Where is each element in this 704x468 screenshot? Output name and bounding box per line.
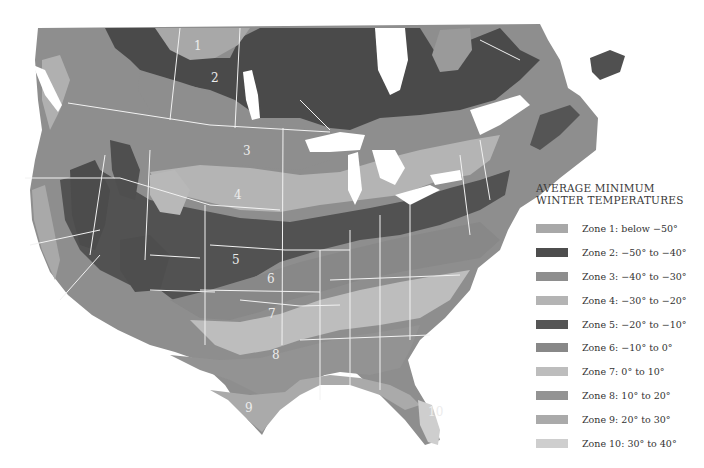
legend-item-zone-2: Zone 2: −50° to −40° (533, 241, 704, 265)
legend-item-zone-8: Zone 8: 10° to 20° (533, 384, 704, 408)
legend-item-zone-7: Zone 7: 0° to 10° (533, 360, 704, 384)
legend-title-line1: AVERAGE MINIMUM (536, 182, 704, 194)
legend: AVERAGE MINIMUM WINTER TEMPERATURES Zone… (533, 182, 704, 455)
zone-label-10: 10 (428, 405, 443, 419)
legend-item-zone-9: Zone 9: 20° to 30° (533, 407, 704, 431)
zone-9-swatch (536, 415, 568, 424)
zone-1-swatch (536, 224, 568, 233)
zone-3-swatch (536, 272, 568, 281)
zone-9-label: Zone 9: 20° to 30° (582, 414, 671, 425)
zone-label-2: 2 (211, 71, 219, 85)
zone-10-swatch (536, 439, 568, 448)
zone-label-1: 1 (194, 39, 202, 53)
legend-item-zone-10: Zone 10: 30° to 40° (533, 431, 704, 455)
zone-7-swatch (536, 367, 568, 376)
zone-label-9: 9 (245, 401, 253, 415)
zone-7-label: Zone 7: 0° to 10° (582, 366, 665, 377)
zone-1-label: Zone 1: below −50° (582, 223, 678, 234)
newfoundland (590, 50, 625, 80)
legend-item-zone-6: Zone 6: −10° to 0° (533, 336, 704, 360)
zone-label-5: 5 (232, 253, 240, 267)
zone-label-8: 8 (272, 348, 280, 362)
zone-8-label: Zone 8: 10° to 20° (582, 390, 671, 401)
zone-8-swatch (536, 391, 568, 400)
zone-label-4: 4 (234, 188, 242, 202)
zone-6-swatch (536, 343, 568, 352)
legend-item-zone-1: Zone 1: below −50° (533, 217, 704, 241)
zone-4-label: Zone 4: −30° to −20° (582, 295, 687, 306)
zone-6-label: Zone 6: −10° to 0° (582, 342, 673, 353)
zone-3-label: Zone 3: −40° to −30° (582, 271, 687, 282)
legend-title: AVERAGE MINIMUM WINTER TEMPERATURES (536, 182, 704, 206)
zone-label-3: 3 (243, 144, 251, 158)
legend-title-line2: WINTER TEMPERATURES (536, 194, 704, 206)
zone-2-swatch (536, 248, 568, 257)
legend-item-zone-3: Zone 3: −40° to −30° (533, 265, 704, 289)
zone-10-label: Zone 10: 30° to 40° (582, 438, 677, 449)
legend-item-zone-5: Zone 5: −20° to −10° (533, 312, 704, 336)
zone-label-6: 6 (267, 272, 275, 286)
zone-4-swatch (536, 296, 568, 305)
zone-5-label: Zone 5: −20° to −10° (582, 319, 687, 330)
zone-5-swatch (536, 320, 568, 329)
legend-item-zone-4: Zone 4: −30° to −20° (533, 288, 704, 312)
zone-label-7: 7 (268, 307, 276, 321)
zone-2-label: Zone 2: −50° to −40° (582, 247, 687, 258)
